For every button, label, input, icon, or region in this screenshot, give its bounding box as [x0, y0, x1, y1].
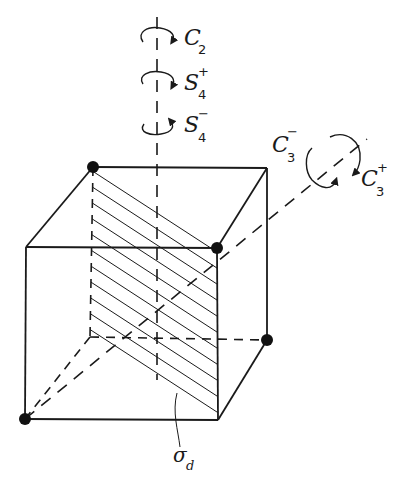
vertex-dot-front-top-right — [211, 242, 223, 254]
vertex-dot-back-top-left — [87, 161, 99, 173]
label-sigma-d: σ d — [173, 443, 194, 473]
c3-minus-rotation-icon — [306, 148, 336, 188]
svg-text:2: 2 — [198, 42, 206, 57]
svg-text:−: − — [198, 106, 209, 121]
svg-text:S: S — [184, 112, 199, 137]
c3-plus-rotation-icon — [330, 135, 360, 174]
label-s4-minus: S 4 − — [184, 106, 209, 145]
cube-edges — [25, 167, 267, 420]
svg-text:d: d — [186, 458, 194, 473]
svg-text:+: + — [198, 64, 209, 79]
label-c3-minus: C 3 − — [272, 124, 298, 165]
c3-axis — [25, 139, 367, 419]
label-c3-plus: C 3 + — [361, 160, 388, 199]
vertex-dot-front-bottom-left — [19, 413, 31, 425]
svg-text:−: − — [287, 124, 298, 139]
svg-text:+: + — [377, 160, 388, 175]
vertex-dots — [19, 161, 273, 425]
label-s4-plus: S 4 + — [184, 64, 209, 102]
svg-text:4: 4 — [198, 130, 206, 145]
svg-text:3: 3 — [287, 150, 295, 165]
label-c2: C 2 — [184, 25, 206, 57]
svg-text:4: 4 — [198, 87, 206, 102]
svg-text:S: S — [184, 70, 199, 95]
rotation-arrows-c3 — [306, 135, 360, 188]
svg-text:3: 3 — [376, 184, 384, 199]
cube-symmetry-diagram: C 2 S 4 + S 4 − C 3 − C 3 + σ d — [0, 0, 406, 483]
vertex-dot-back-bottom-right — [261, 334, 273, 346]
